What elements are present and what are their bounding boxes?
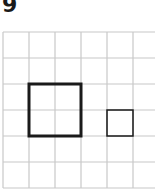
- small-square: [107, 110, 133, 136]
- grid-diagram: [0, 0, 155, 194]
